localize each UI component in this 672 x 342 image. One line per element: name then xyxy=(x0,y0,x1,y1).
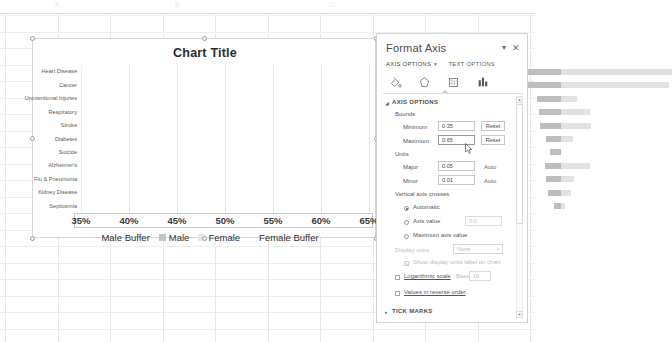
radio-maximum-axis-value[interactable] xyxy=(404,234,409,239)
grid-row-line xyxy=(0,15,534,16)
radio-automatic[interactable] xyxy=(404,206,409,211)
grid-row-line xyxy=(0,329,534,330)
chart-handle-middle-left[interactable] xyxy=(30,136,35,141)
units-group-label: Units xyxy=(395,151,409,157)
category-label: Flu & Pneumonia xyxy=(34,176,77,182)
radio-axis-value[interactable] xyxy=(404,220,409,225)
tab-text-options[interactable]: TEXT OPTIONS xyxy=(448,61,495,67)
vertical-axis-crosses-label: Vertical axis crosses xyxy=(395,191,449,197)
category-label: Unintentional Injuries xyxy=(25,95,77,101)
chart-handle-top-left[interactable] xyxy=(30,36,35,41)
bar-segment-male[interactable] xyxy=(546,136,561,142)
legend-label: Female Buffer xyxy=(259,232,319,243)
bar-segment-female[interactable] xyxy=(561,190,571,196)
bar-segment-female[interactable] xyxy=(561,96,577,102)
pane-title: Format Axis xyxy=(386,42,446,54)
logarithmic-scale-checkbox[interactable] xyxy=(395,275,400,280)
tab-axis-options[interactable]: AXIS OPTIONS▼ xyxy=(386,61,438,67)
minor-unit-auto-label[interactable]: Auto xyxy=(484,178,496,184)
chart-plot-area[interactable]: SepticemiaKidney DiseaseFlu & PneumoniaA… xyxy=(81,65,369,213)
log-base-input[interactable]: 10 xyxy=(469,271,491,281)
radio-automatic-label[interactable]: Automatic xyxy=(413,204,440,210)
axis-tick-label: 50% xyxy=(215,215,234,226)
bar-segment-male[interactable] xyxy=(537,96,561,102)
category-label: Suicide xyxy=(59,149,77,155)
legend-swatch-male xyxy=(159,234,166,241)
chart-object[interactable]: Chart Title SepticemiaKidney DiseaseFlu … xyxy=(32,38,376,238)
axis-options-section-header[interactable]: AXIS OPTIONS xyxy=(392,99,438,105)
bar-segment-male[interactable] xyxy=(548,190,561,196)
minimum-input[interactable]: 0.35 xyxy=(438,121,475,131)
category-label: Cancer xyxy=(59,82,77,88)
bar-segment-male[interactable] xyxy=(539,109,561,115)
bar-segment-male[interactable] xyxy=(540,123,561,129)
log-base-label: Base xyxy=(456,273,470,279)
bar-segment-female[interactable] xyxy=(561,163,590,169)
legend-swatch-none xyxy=(249,234,256,241)
axis-options-expand-arrow[interactable]: ◢ xyxy=(385,100,389,106)
major-unit-auto-label[interactable]: Auto xyxy=(484,164,496,170)
legend-item[interactable]: Female Buffer xyxy=(249,232,319,243)
bar-segment-female[interactable] xyxy=(561,109,590,115)
bar-segment-female[interactable] xyxy=(561,82,669,88)
tick-marks-expand-arrow[interactable]: ▸ xyxy=(385,309,388,315)
bar-segment-male[interactable] xyxy=(546,176,561,182)
legend-label: Female xyxy=(208,232,240,243)
grid-column-line xyxy=(5,14,6,342)
gridline xyxy=(273,65,274,213)
radio-axis-value-label[interactable]: Axis value xyxy=(413,218,440,224)
category-label: Respiratory xyxy=(48,109,77,115)
legend-item[interactable]: Male xyxy=(159,232,190,243)
chart-handle-bottom-center[interactable] xyxy=(202,236,207,241)
bar-segment-female[interactable] xyxy=(561,203,565,209)
pane-scrollbar-thumb[interactable] xyxy=(516,104,523,224)
bar-segment-male[interactable] xyxy=(550,149,561,155)
scroll-up-arrow-icon[interactable]: ▲ xyxy=(516,96,523,103)
bar-segment-male[interactable] xyxy=(554,203,561,209)
bar-segment-female[interactable] xyxy=(561,176,574,182)
chart-title[interactable]: Chart Title xyxy=(33,46,377,60)
chart-handle-bottom-left[interactable] xyxy=(30,236,35,241)
radio-maximum-axis-value-label[interactable]: Maximum axis value xyxy=(413,232,467,238)
logarithmic-scale-label[interactable]: Logarithmic scale xyxy=(404,273,451,279)
axis-tick-label: 60% xyxy=(311,215,330,226)
format-axis-pane[interactable]: Format Axis ▾ ✕ AXIS OPTIONS▼ TEXT OPTIO… xyxy=(376,33,528,323)
values-in-reverse-order-label[interactable]: Values in reverse order xyxy=(404,289,466,295)
show-display-units-label-checkbox[interactable] xyxy=(404,261,409,266)
grid-column-line xyxy=(530,14,531,342)
display-units-select[interactable]: None ▼ xyxy=(453,244,503,254)
chevron-down-icon[interactable]: ▼ xyxy=(433,61,438,67)
bar-segment-female[interactable] xyxy=(561,69,672,75)
effects-icon[interactable] xyxy=(416,74,433,91)
display-units-label: Display units xyxy=(395,247,429,253)
maximum-reset-button[interactable]: Reset xyxy=(481,135,505,145)
bar-segment-female[interactable] xyxy=(561,123,591,129)
chevron-down-icon[interactable]: ▼ xyxy=(496,245,500,254)
tab-axis-options-label: AXIS OPTIONS xyxy=(386,61,431,67)
pane-tab-strip[interactable]: AXIS OPTIONS▼ TEXT OPTIONS xyxy=(386,61,495,67)
bar-segment-female[interactable] xyxy=(561,136,573,142)
minor-unit-input[interactable]: 0.01 xyxy=(438,175,475,185)
bar-segment-male[interactable] xyxy=(545,163,561,169)
minimum-reset-button[interactable]: Reset xyxy=(481,121,505,131)
major-unit-label: Major xyxy=(403,164,418,170)
chart-handle-top-center[interactable] xyxy=(202,36,207,41)
pane-icon-row[interactable] xyxy=(387,72,519,92)
value-axis-tick-labels[interactable]: 35%40%45%50%55%60%65% xyxy=(73,215,377,229)
close-icon[interactable]: ✕ xyxy=(511,43,521,53)
chevron-down-icon[interactable]: ▾ xyxy=(499,43,509,53)
scroll-down-arrow-icon[interactable]: ▼ xyxy=(516,311,523,318)
values-in-reverse-order-checkbox[interactable] xyxy=(395,291,400,296)
fill-and-line-icon[interactable] xyxy=(387,74,404,91)
axis-value-input[interactable]: 0.0 xyxy=(465,216,502,226)
legend-item[interactable]: Male Buffer xyxy=(91,232,149,243)
pane-scroll-body[interactable]: ◢ AXIS OPTIONS Bounds Minimum 0.35 Reset… xyxy=(377,94,527,323)
major-unit-input[interactable]: 0.05 xyxy=(438,161,475,171)
axis-options-chart-icon[interactable] xyxy=(474,74,491,91)
size-and-properties-icon[interactable] xyxy=(445,74,462,91)
legend-swatch-none xyxy=(91,234,98,241)
tick-marks-section-header[interactable]: TICK MARKS xyxy=(392,308,433,314)
bounds-group-label: Bounds xyxy=(395,111,415,117)
category-label: Stroke xyxy=(61,122,77,128)
